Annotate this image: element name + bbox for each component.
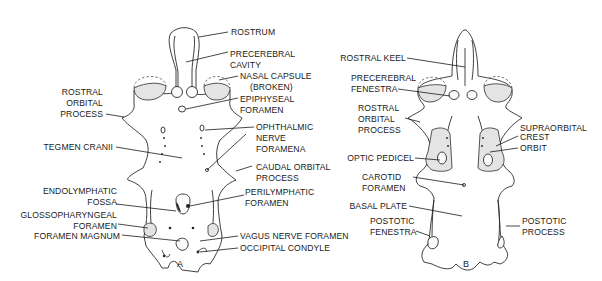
label-basal-plate: BASAL PLATE (350, 201, 408, 211)
panel-b-optic-pedicel-left (438, 152, 447, 164)
panel-a-right-nasal-capsule (204, 83, 230, 100)
label-precerebral-fenestra-1: PRECEREBRAL (351, 73, 416, 83)
panel-a-rostrum-inner (174, 36, 195, 90)
label-rostral-keel: ROSTRAL KEEL (340, 53, 406, 63)
panel-b-optic-pedicel-right (484, 154, 493, 166)
label-endolymphatic-1: ENDOLYMPHATIC (43, 186, 117, 196)
label-perilymphatic-1: PERILYMPHATIC (245, 187, 314, 197)
label-vagus-nerve-foramen: VAGUS NERVE FORAMEN (240, 231, 349, 241)
label-ophthalmic-3: FORAMENA (256, 144, 306, 154)
label-postotic-process-1: POSTOTIC (522, 216, 567, 226)
label-postotic-fenestra-2: FENESTRA (370, 227, 417, 237)
label-rostrum: ROSTRUM (231, 27, 275, 37)
panel-b-left-fenestra (449, 91, 459, 100)
label-epiphyseal-2: FORAMEN (240, 105, 284, 115)
label-precerebral-fenestra-2: FENESTRA (351, 84, 398, 94)
label-nasal-capsule-2: (BROKEN) (250, 82, 293, 92)
panel-label-b: B (463, 259, 469, 269)
label-glossopharyngeal-1: GLOSSOPHARYNGEAL (21, 210, 118, 220)
panel-b-labels: ROSTRAL KEEL PRECEREBRAL FENESTRA ROSTRA… (340, 53, 587, 269)
panel-b-postotic-fenestra-left (428, 237, 438, 249)
chondrocranium-figure: ROSTRUM PRECEREBRAL CAVITY NASAL CAPSULE… (0, 0, 602, 281)
label-nasal-capsule-1: NASAL CAPSULE (240, 71, 312, 81)
label-precerebral-cavity-2: CAVITY (230, 60, 261, 70)
label-rostral-orbital-a-2: ORBITAL (66, 98, 103, 108)
panel-a-cranium-outline (122, 28, 242, 272)
panel-a-skull-dorsal (122, 28, 242, 272)
label-rostral-orbital-a-1: ROSTRAL (62, 87, 103, 97)
label-supraorbital-2: CREST (520, 132, 550, 142)
panel-a-epiphyseal-foramen (179, 106, 186, 112)
panel-b-right-fenestra (467, 91, 477, 100)
label-foramen-magnum: FORAMEN MAGNUM (34, 231, 120, 241)
label-postotic-fenestra-1: POSTOTIC (370, 216, 415, 226)
label-precerebral-cavity-1: PRECEREBRAL (230, 49, 295, 59)
label-ophthalmic-2: NERVE (256, 133, 286, 143)
label-glossopharyngeal-2: FORAMEN (73, 221, 117, 231)
label-rostral-orbital-b-3: PROCESS (358, 125, 401, 135)
label-tegmen-cranii: TEGMEN CRANII (43, 142, 113, 152)
label-postotic-process-2: PROCESS (522, 227, 565, 237)
label-epiphyseal-1: EPIPHYSEAL (240, 94, 295, 104)
panel-a-endolymphatic-fossa (176, 194, 190, 214)
label-caudal-orbital-2: PROCESS (256, 173, 299, 183)
panel-a-left-nasal-capsule (134, 83, 166, 100)
label-carotid-2: FORAMEN (362, 183, 406, 193)
label-rostral-orbital-b-2: ORBITAL (358, 114, 395, 124)
panel-a-left-rostral-hole (172, 87, 183, 98)
label-carotid-1: CAROTID (362, 172, 401, 182)
label-orbit: ORBIT (520, 143, 547, 153)
label-rostral-orbital-b-1: ROSTRAL (358, 103, 399, 113)
panel-a-labels: ROSTRUM PRECEREBRAL CAVITY NASAL CAPSULE… (21, 27, 349, 269)
label-ophthalmic-1: OPHTHALMIC (256, 122, 313, 132)
label-endolymphatic-2: FOSSA (87, 197, 117, 207)
label-optic-pedicel: OPTIC PEDICEL (347, 153, 414, 163)
panel-a-right-rostral-hole (187, 87, 198, 98)
label-occipital-condyle: OCCIPITAL CONDYLE (240, 243, 330, 253)
label-rostral-orbital-a-3: PROCESS (60, 109, 103, 119)
panel-a-foramen-magnum (176, 238, 188, 250)
label-caudal-orbital-1: CAUDAL ORBITAL (256, 162, 331, 172)
label-perilymphatic-2: FORAMEN (245, 198, 289, 208)
panel-label-a: A (177, 259, 183, 269)
